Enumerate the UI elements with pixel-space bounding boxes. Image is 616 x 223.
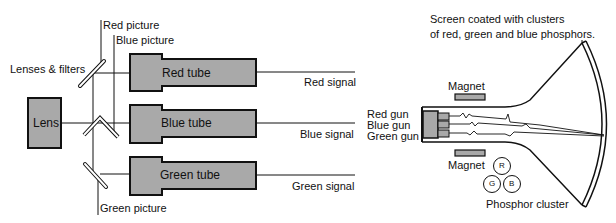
magnet-top bbox=[455, 94, 485, 100]
magnet-bottom-label: Magnet bbox=[448, 159, 485, 171]
phosphor-r-label: R bbox=[499, 161, 505, 170]
magnet-bottom bbox=[455, 150, 485, 156]
green-picture-label: Green picture bbox=[100, 202, 167, 214]
magnet-top-label: Magnet bbox=[448, 80, 485, 92]
blue-tube-label: Blue tube bbox=[161, 117, 212, 130]
blue-signal-label: Blue signal bbox=[300, 128, 354, 140]
red-picture-label: Red picture bbox=[103, 19, 159, 31]
gun-assembly bbox=[423, 111, 438, 138]
green-gun-label: Green gun bbox=[367, 130, 419, 142]
red-tube-label: Red tube bbox=[162, 67, 211, 80]
middle-filter bbox=[84, 118, 118, 137]
phosphor-cluster-label: Phosphor cluster bbox=[486, 198, 569, 210]
screen-caption-line1: Screen coated with clusters bbox=[430, 13, 565, 25]
lens-label: Lens bbox=[33, 117, 59, 130]
green-signal-label: Green signal bbox=[292, 180, 354, 192]
screen-caption-line2: of red, green and blue phosphors. bbox=[430, 28, 595, 40]
phosphor-b-label: B bbox=[509, 179, 514, 188]
bottom-filter bbox=[85, 164, 106, 187]
phosphor-g-label: G bbox=[489, 179, 495, 188]
lenses-filters-label: Lenses & filters bbox=[10, 63, 85, 75]
red-signal-label: Red signal bbox=[304, 76, 356, 88]
green-tube-label: Green tube bbox=[160, 169, 220, 182]
blue-picture-label: Blue picture bbox=[116, 34, 174, 46]
